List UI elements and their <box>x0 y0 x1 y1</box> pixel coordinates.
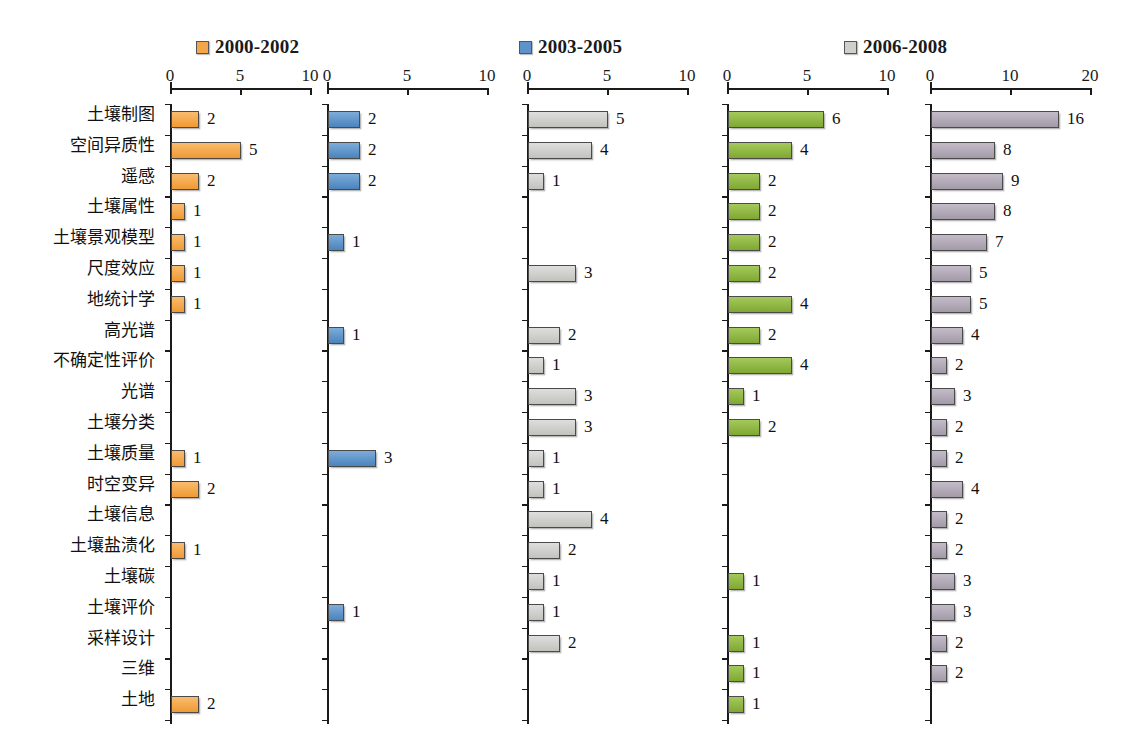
bar <box>931 234 987 251</box>
axis-tick-mark <box>607 88 609 95</box>
bar-value-label: 3 <box>584 417 593 437</box>
bar <box>528 573 544 590</box>
category-label: 空间异质性 <box>0 131 163 162</box>
bar-value-label: 2 <box>768 201 777 221</box>
bar-value-label: 4 <box>800 355 809 375</box>
category-tick-mark <box>722 720 727 721</box>
bar <box>171 450 185 467</box>
legend-swatch-icon <box>519 41 532 54</box>
category-label: 尺度效应 <box>0 254 163 285</box>
legend-label: 2000-2002 <box>215 36 299 58</box>
value-axis: 01020 <box>930 66 1128 104</box>
bar-value-label: 1 <box>193 201 202 221</box>
bar <box>728 203 760 220</box>
bar <box>931 604 955 621</box>
bar <box>728 265 760 282</box>
bar-value-label: 2 <box>955 417 964 437</box>
axis-tick-mark <box>310 88 312 95</box>
bar-value-label: 4 <box>600 509 609 529</box>
bar-row: 3 <box>930 381 1128 412</box>
bar-value-label: 2 <box>955 540 964 560</box>
bar-value-label: 1 <box>193 263 202 283</box>
axis-tick-mark <box>240 88 242 95</box>
bar-value-label: 2 <box>768 263 777 283</box>
bar <box>931 296 971 313</box>
category-tick-mark <box>925 720 930 721</box>
axis-tick-mark <box>327 82 329 94</box>
bar-value-label: 2 <box>955 633 964 653</box>
legend-item-2003-2005: 2003-2005 <box>519 36 622 58</box>
axis-tick-label: 5 <box>403 66 412 86</box>
bar-value-label: 1 <box>552 448 561 468</box>
bar <box>728 327 760 344</box>
category-label: 土壤盐渍化 <box>0 531 163 562</box>
bar-value-label: 2 <box>568 633 577 653</box>
bar <box>728 573 744 590</box>
bar-value-label: 16 <box>1067 109 1084 129</box>
bar <box>171 542 185 559</box>
bar <box>728 142 792 159</box>
bar-value-label: 4 <box>800 140 809 160</box>
bar <box>328 327 344 344</box>
bar <box>328 111 360 128</box>
bar-value-label: 2 <box>768 325 777 345</box>
axis-tick-label: 5 <box>603 66 612 86</box>
bar <box>728 357 792 374</box>
bar <box>528 111 608 128</box>
bar-row: 3 <box>930 566 1128 597</box>
bar-row: 16 <box>930 104 1128 135</box>
bar-value-label: 5 <box>249 140 258 160</box>
legend-item-2006-2008: 2006-2008 <box>844 36 947 58</box>
bar-row: 2 <box>930 443 1128 474</box>
bar-value-label: 3 <box>584 263 593 283</box>
category-label: 地统计学 <box>0 285 163 316</box>
bar-value-label: 1 <box>752 386 761 406</box>
bar-value-label: 2 <box>955 448 964 468</box>
bar <box>528 265 576 282</box>
category-label: 土壤质量 <box>0 439 163 470</box>
bar <box>931 173 1003 190</box>
bar-row: 4 <box>930 474 1128 505</box>
axis-tick-mark <box>487 88 489 95</box>
bar-row: 5 <box>930 289 1128 320</box>
bar <box>931 481 963 498</box>
legend-label: 2006-2008 <box>863 36 947 58</box>
bar-row: 2 <box>930 628 1128 659</box>
bar <box>528 450 544 467</box>
bar <box>528 511 592 528</box>
bar <box>728 635 744 652</box>
bar <box>171 481 199 498</box>
bar-value-label: 2 <box>955 663 964 683</box>
axis-tick-label: 5 <box>803 66 812 86</box>
legend-swatch-icon <box>844 41 857 54</box>
bar <box>931 111 1059 128</box>
category-label: 遥感 <box>0 162 163 193</box>
bar <box>328 142 360 159</box>
axis-tick-label: 10 <box>302 66 319 86</box>
bar <box>728 388 744 405</box>
axis-tick-mark <box>727 82 729 94</box>
bar-row: 7 <box>930 227 1128 258</box>
bar-row: 4 <box>930 320 1128 351</box>
bar <box>528 327 560 344</box>
bar-value-label: 4 <box>600 140 609 160</box>
bar-value-label: 5 <box>616 109 625 129</box>
bar-row: 2 <box>930 535 1128 566</box>
bar-value-label: 1 <box>193 448 202 468</box>
bar <box>728 665 744 682</box>
bar <box>171 296 185 313</box>
bar <box>728 173 760 190</box>
axis-tick-label: 10 <box>679 66 696 86</box>
bar-value-label: 1 <box>552 571 561 591</box>
bar-value-label: 2 <box>368 171 377 191</box>
category-label: 不确定性评价 <box>0 346 163 377</box>
bar-value-label: 2 <box>368 140 377 160</box>
bar <box>528 357 544 374</box>
bar-row: 2 <box>930 350 1128 381</box>
category-label: 土壤评价 <box>0 593 163 624</box>
bar-value-label: 8 <box>1003 201 1012 221</box>
axis-tick-label: 5 <box>236 66 245 86</box>
bar-row <box>930 689 1128 720</box>
bar-value-label: 2 <box>955 509 964 529</box>
plot-area: 16898755423224223322 <box>930 104 1128 720</box>
